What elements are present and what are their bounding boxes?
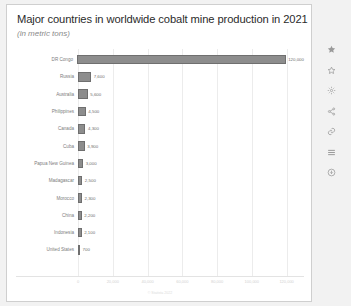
- bar[interactable]: [78, 141, 85, 151]
- bar-category-label: United States: [16, 247, 78, 252]
- bar-category-label: Australia: [16, 92, 78, 97]
- bar[interactable]: [77, 55, 286, 65]
- bar[interactable]: [78, 107, 86, 117]
- link-icon[interactable]: [326, 126, 337, 137]
- bar[interactable]: [78, 72, 91, 82]
- bar[interactable]: [78, 193, 82, 203]
- download-icon[interactable]: [326, 167, 337, 178]
- bar-row[interactable]: Canada4,300: [16, 120, 304, 137]
- bar-track: 7,600: [78, 68, 304, 85]
- bar-value-label: 120,000: [288, 57, 304, 62]
- gear-icon[interactable]: [326, 85, 337, 96]
- bar-value-label: 2,100: [84, 230, 95, 235]
- chart-card: Major countries in worldwide cobalt mine…: [6, 4, 312, 302]
- bar-category-label: Russia: [16, 74, 78, 79]
- bar-row[interactable]: Russia7,600: [16, 68, 304, 85]
- star-icon[interactable]: [326, 44, 337, 55]
- bar-category-label: Philippines: [16, 109, 78, 114]
- x-tick-label: 20,000: [107, 279, 119, 284]
- bar[interactable]: [78, 228, 82, 238]
- chart-title: Major countries in worldwide cobalt mine…: [17, 13, 301, 26]
- bar-row[interactable]: Indonesia2,100: [16, 224, 304, 241]
- bar-value-label: 2,500: [85, 178, 96, 183]
- bar-value-label: 7,600: [94, 74, 105, 79]
- chart-source: © Statista 2022: [16, 291, 304, 295]
- bar-rows: DR Congo120,000Russia7,600Australia5,600…: [16, 51, 304, 274]
- bar-row[interactable]: Papua New Guinea3,000: [16, 155, 304, 172]
- bar-category-label: Madagascar: [16, 178, 78, 183]
- bar-value-label: 2,300: [84, 196, 95, 201]
- bar-value-label: 2,200: [84, 213, 95, 218]
- bar[interactable]: [78, 89, 88, 99]
- bar-value-label: 700: [83, 247, 90, 252]
- x-tick-label: 100,000: [245, 279, 259, 284]
- bar-row[interactable]: DR Congo120,000: [16, 51, 304, 68]
- share-icon[interactable]: [326, 106, 337, 117]
- bar[interactable]: [78, 159, 83, 169]
- x-tick-label: 0: [77, 279, 79, 284]
- plot-area: DR Congo120,000Russia7,600Australia5,600…: [16, 49, 304, 277]
- bar-row[interactable]: Philippines4,500: [16, 103, 304, 120]
- bar-track: 2,200: [78, 207, 304, 224]
- bar-row[interactable]: Madagascar2,500: [16, 172, 304, 189]
- bar-row[interactable]: Cuba3,900: [16, 137, 304, 154]
- bar-category-label: Canada: [16, 126, 78, 131]
- bar-category-label: Indonesia: [16, 230, 78, 235]
- bar-category-label: DR Congo: [16, 57, 77, 62]
- x-tick-label: 80,000: [211, 279, 223, 284]
- bar-track: 3,000: [78, 155, 304, 172]
- chart-subtitle: (in metric tons): [17, 29, 301, 38]
- bar-track: 2,500: [78, 172, 304, 189]
- chart-screenshot: Major countries in worldwide cobalt mine…: [0, 0, 351, 306]
- x-tick-label: 60,000: [176, 279, 188, 284]
- bar-track: 5,600: [78, 86, 304, 103]
- bar[interactable]: [78, 211, 82, 221]
- side-toolbar: [312, 44, 351, 178]
- bar-category-label: Cuba: [16, 144, 78, 149]
- x-axis: 020,00040,00060,00080,000100,000120,000: [78, 279, 304, 289]
- bar[interactable]: [78, 176, 82, 186]
- bar-row[interactable]: United States700: [16, 241, 304, 258]
- bar-category-label: China: [16, 213, 78, 218]
- bar-row[interactable]: China2,200: [16, 207, 304, 224]
- bar-row[interactable]: Australia5,600: [16, 86, 304, 103]
- bar-category-label: Papua New Guinea: [16, 161, 78, 166]
- bar-value-label: 4,500: [88, 109, 99, 114]
- bar-track: 4,300: [78, 120, 304, 137]
- bar-track: 120,000: [77, 51, 304, 68]
- x-tick-label: 40,000: [141, 279, 153, 284]
- bar-value-label: 4,300: [88, 126, 99, 131]
- star-outline-icon[interactable]: [326, 65, 337, 76]
- bar-value-label: 3,000: [86, 161, 97, 166]
- bar-track: 700: [78, 241, 304, 258]
- bar-row[interactable]: Morocco2,300: [16, 189, 304, 206]
- bar[interactable]: [78, 245, 80, 255]
- bar-category-label: Morocco: [16, 196, 78, 201]
- bar-track: 3,900: [78, 137, 304, 154]
- x-tick-label: 120,000: [279, 279, 293, 284]
- bar-value-label: 3,900: [87, 144, 98, 149]
- bar-track: 2,100: [78, 224, 304, 241]
- bar-track: 4,500: [78, 103, 304, 120]
- bar-track: 2,300: [78, 189, 304, 206]
- bar-value-label: 5,600: [90, 92, 101, 97]
- list-icon[interactable]: [326, 147, 337, 158]
- bar[interactable]: [78, 124, 85, 134]
